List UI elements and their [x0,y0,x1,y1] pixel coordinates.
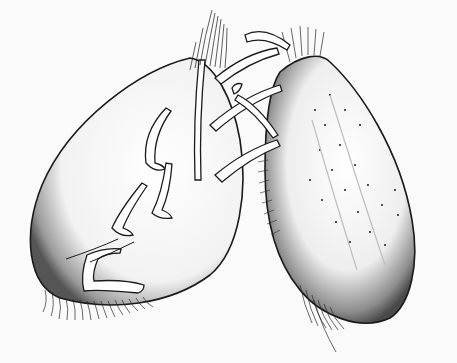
left-lobe [30,58,242,320]
appendage-illustration [0,0,457,363]
right-lobe [258,26,415,352]
illustration-canvas [0,0,457,363]
